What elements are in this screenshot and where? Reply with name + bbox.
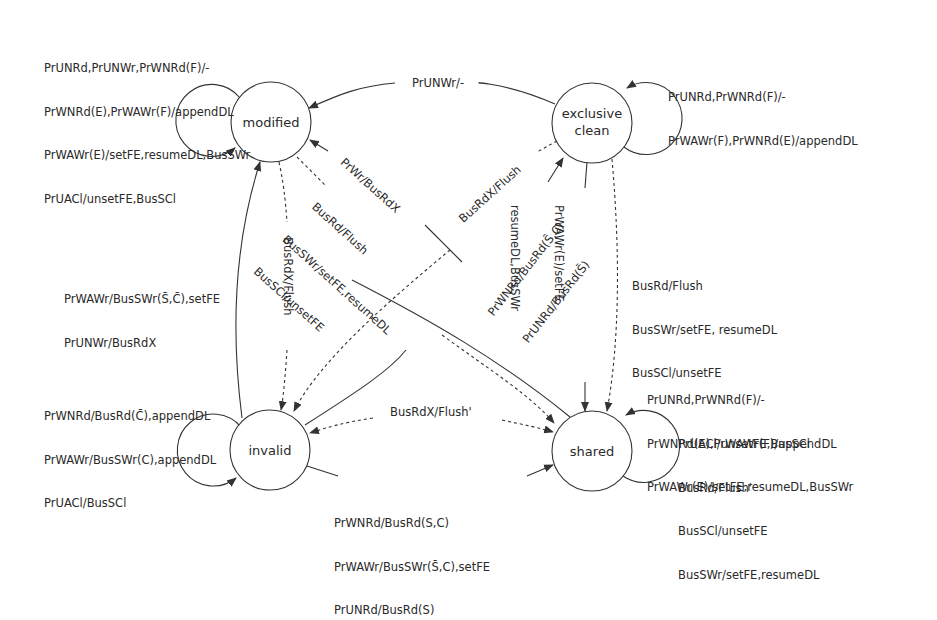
state-exclusive-label-1: exclusive (562, 106, 622, 121)
shared-self-loop-label-bottom: PrUACl/unsetFE,BusSCl BusRd/Flush' BusSC… (678, 408, 819, 597)
label-line: PrWAWr/BusSWr(C),appendDL (44, 453, 216, 468)
label-line: PrUNRd,PrUNWr,PrWNRd(F)/- (44, 61, 250, 76)
label-line: PrWAWr(E)/setFE,resumeDL,BusSWr (44, 148, 250, 163)
state-invalid-label: invalid (249, 443, 292, 458)
label-invalid-to-modified: PrWAWr/BusSWr(S̄,C̄),setFE PrUNWr/BusRdX (64, 263, 220, 365)
label-line: PrWNRd(E),PrWAWr(F)/appendDL (44, 105, 250, 120)
label-exclusive-to-modified: PrUNWr/- (412, 76, 464, 91)
edge-exclusive-to-invalid (537, 141, 557, 152)
edge-exclusive-to-shared-dashed (607, 159, 617, 411)
label-line: PrUNRd/BusRd(S) (334, 603, 490, 618)
label-line: PrUNRd,PrWNRd(F)/- (647, 393, 853, 408)
state-shared-label: shared (570, 444, 614, 459)
label-line: BusSWr/setFE,resumeDL (678, 568, 819, 583)
label-line: PrUNRd,PrWNRd(F)/- (668, 90, 858, 105)
label-line: PrWAWr/BusSWr(S̄,C),setFE (334, 560, 490, 575)
label-exclusive-to-shared-dashed: BusRd/Flush BusSWr/setFE, resumeDL BusSC… (632, 250, 777, 395)
label-line: BusSCl/unsetFE (678, 524, 819, 539)
label-line: PrUACl/unsetFE,BusSCl (44, 192, 250, 207)
label-line: PrUACl/unsetFE,BusSCl (678, 437, 819, 452)
label-line: PrUNWr/BusRdX (64, 336, 220, 351)
edge-invalid-to-shared (307, 466, 338, 476)
label-line: PrWAWr(F),PrWNRd(E)/appendDL (668, 134, 858, 149)
label-line: resumeDL,BusSWr (508, 205, 523, 311)
invalid-self-loop-label: PrWNRd/BusRd(C̄),appendDL PrWAWr/BusSWr(… (44, 380, 216, 525)
label-exclusive-to-shared-solid: PrWAWr(E)/setFE, resumeDL,BusSWr (494, 205, 596, 311)
label-line: PrWNRd/BusRd(C̄),appendDL (44, 409, 216, 424)
edge-modified-to-shared (297, 157, 325, 185)
label-shared-to-invalid: BusRdX/Flush' (390, 405, 472, 420)
edge-exclusive-to-shared-solid (585, 162, 587, 188)
edge-modified-to-invalid (279, 162, 287, 222)
label-line: PrWAWr(E)/setFE, (552, 205, 567, 311)
edge-exclusive-to-modified (479, 83, 555, 104)
label-line: BusSWr/setFE,resumeDL (280, 232, 395, 337)
label-line: PrUACl/BusSCl (44, 496, 216, 511)
edge-shared-to-invalid (310, 418, 373, 433)
label-line: BusSCl/unsetFE (632, 366, 777, 381)
label-line: BusRd/Flush' (678, 481, 819, 496)
modified-self-loop-label: PrUNRd,PrUNWr,PrWNRd(F)/- PrWNRd(E),PrWA… (44, 32, 250, 221)
exclusive-self-loop-label: PrUNRd,PrWNRd(F)/- PrWAWr(F),PrWNRd(E)/a… (668, 61, 858, 163)
label-line: BusSWr/setFE, resumeDL (632, 323, 777, 338)
label-line: BusRd/Flush (632, 279, 777, 294)
label-line: PrWNRd/BusRd(S,C) (334, 516, 490, 531)
state-modified-label: modified (243, 115, 300, 130)
label-line: PrWAWr/BusSWr(S̄,C̄),setFE (64, 292, 220, 307)
state-exclusive-label-2: clean (575, 123, 610, 138)
label-invalid-to-shared: PrWNRd/BusRd(S,C) PrWAWr/BusSWr(S̄,C),se… (334, 487, 490, 620)
